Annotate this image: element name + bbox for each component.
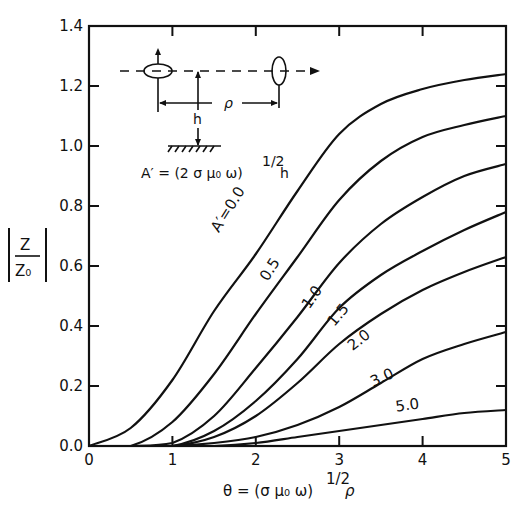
curve-5.0 (89, 410, 506, 446)
arrow-left-icon (159, 100, 166, 106)
arrow-down-icon (195, 139, 201, 146)
curve-label: 5.0 (394, 394, 420, 415)
x-tick-label: 4 (418, 451, 428, 469)
rho-label: ρ (224, 95, 233, 111)
y-tick-label: 0.2 (59, 377, 83, 395)
y-tick-label: 1.4 (59, 17, 83, 35)
arrow-right-icon (271, 100, 278, 106)
x-tick-label: 3 (334, 451, 344, 469)
x-tick-label: 0 (84, 451, 94, 469)
y-label-numerator: Z (20, 236, 30, 254)
formula-tail: h (280, 165, 289, 181)
formula-text: A′ = (2 σ μ₀ ω) (141, 165, 243, 181)
x-tick-label: 1 (168, 451, 178, 469)
curve-label: 2.0 (344, 326, 374, 355)
curve-1.5 (89, 212, 506, 446)
y-tick-label: 1.2 (59, 77, 83, 95)
y-axis-label: Z Z₀ (9, 228, 46, 282)
chart: 0123450.00.20.40.60.81.01.21.4 A′=0.00.5… (0, 0, 520, 506)
curve-3.0 (89, 332, 506, 446)
y-tick-label: 0.6 (59, 257, 83, 275)
curve-label: 1.0 (298, 282, 326, 312)
arrow-right-icon (310, 67, 320, 75)
y-tick-label: 1.0 (59, 137, 83, 155)
x-label-main: θ = (σ μ₀ ω) (223, 482, 313, 500)
curve-1.0 (89, 164, 506, 446)
inset-diagram: ρ h A′ = (2 σ μ₀ ω) 1/2 h (120, 48, 320, 181)
arrow-up-icon (195, 71, 201, 78)
curves (89, 74, 506, 446)
y-tick-label: 0.8 (59, 197, 83, 215)
x-axis-label: θ = (σ μ₀ ω) 1/2 ρ (223, 470, 355, 500)
curve-label: A′=0.0 (207, 183, 249, 235)
x-tick-label: 5 (501, 451, 511, 469)
x-label-tail: ρ (345, 482, 355, 500)
curve-label: 3.0 (367, 364, 396, 390)
y-tick-label: 0.4 (59, 317, 83, 335)
x-tick-label: 2 (251, 451, 261, 469)
ground-hatch (168, 146, 214, 152)
y-label-denominator: Z₀ (15, 262, 31, 280)
arrow-up-icon (155, 48, 161, 55)
y-tick-label: 0.0 (59, 437, 83, 455)
curve-label: 1.5 (324, 300, 353, 330)
h-label: h (193, 111, 202, 127)
